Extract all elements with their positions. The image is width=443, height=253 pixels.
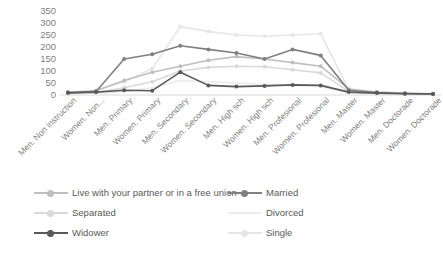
data-point (291, 83, 295, 87)
legend-item[interactable]: Separated (34, 204, 116, 222)
data-point (122, 88, 126, 92)
data-point (66, 91, 70, 95)
data-point (206, 65, 210, 69)
y-axis-tick-300: 300 (22, 18, 56, 28)
data-point (291, 47, 295, 51)
data-point (206, 83, 210, 87)
data-point (291, 61, 295, 65)
legend-item[interactable]: Single (228, 224, 292, 242)
data-point (206, 47, 210, 51)
plot-area: 350300250200150100500 (0, 0, 441, 100)
y-axis-tick-150: 150 (22, 54, 56, 64)
data-point (234, 51, 238, 55)
data-point (150, 67, 154, 71)
series-single (66, 25, 435, 96)
data-point (234, 85, 238, 89)
legend-label: Live with your partner or in a free unio… (72, 188, 237, 198)
data-point (319, 71, 323, 75)
legend-swatch-icon (228, 188, 262, 198)
data-point (375, 91, 379, 95)
y-axis-tick-250: 250 (22, 30, 56, 40)
data-point (234, 33, 238, 37)
data-point (178, 25, 182, 29)
data-point (263, 84, 267, 88)
data-point (150, 80, 154, 84)
data-point (206, 29, 210, 33)
x-axis-tick-13: Women. Doctorade (385, 96, 443, 154)
legend-item[interactable]: Widower (34, 224, 109, 242)
data-point (150, 52, 154, 56)
data-point (122, 57, 126, 61)
data-point (291, 33, 295, 37)
data-point (150, 89, 154, 93)
chart-series-canvas (60, 0, 441, 100)
data-point (150, 70, 154, 74)
y-axis-tick-350: 350 (22, 6, 56, 16)
legend-swatch-icon (34, 228, 68, 238)
legend-label: Widower (72, 228, 109, 238)
legend-label: Separated (72, 208, 116, 218)
legend-item[interactable]: Live with your partner or in a free unio… (34, 184, 237, 202)
legend-swatch-icon (228, 228, 262, 238)
data-point (347, 90, 351, 94)
data-point (319, 32, 323, 36)
data-point (319, 83, 323, 87)
data-point (178, 64, 182, 68)
legend-swatch-icon (34, 188, 68, 198)
data-point (319, 64, 323, 68)
chart-legend: Live with your partner or in a free unio… (0, 184, 441, 253)
legend-item[interactable]: Married (228, 184, 298, 202)
y-axis-tick-100: 100 (22, 66, 56, 76)
legend-label: Single (266, 228, 292, 238)
data-point (122, 79, 126, 83)
legend-label: Married (266, 188, 298, 198)
legend-swatch-icon (228, 208, 262, 218)
data-point (178, 70, 182, 74)
data-point (234, 64, 238, 68)
legend-label: Divorced (266, 208, 304, 218)
legend-item[interactable]: Divorced (228, 204, 304, 222)
data-point (234, 55, 238, 59)
data-point (263, 65, 267, 69)
data-point (263, 34, 267, 38)
data-point (178, 44, 182, 48)
y-axis-tick-50: 50 (22, 78, 56, 88)
data-point (291, 68, 295, 72)
x-axis-tick-labels: Men. Non instructionWomen. Non...Men. Pr… (0, 96, 441, 180)
data-point (263, 57, 267, 61)
data-point (319, 53, 323, 57)
legend-swatch-icon (34, 208, 68, 218)
y-axis-tick-labels: 350300250200150100500 (22, 0, 56, 100)
data-point (94, 90, 98, 94)
data-point (206, 58, 210, 62)
y-axis-tick-200: 200 (22, 42, 56, 52)
